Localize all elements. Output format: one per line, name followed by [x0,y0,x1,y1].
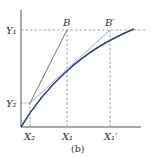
label-x1-prime: X₁′ [103,131,118,142]
concave-curve [21,29,134,127]
label-y1: Y₁ [6,25,17,36]
label-x2: X₂ [23,131,35,142]
figure-caption: (b) [71,143,85,154]
label-point-b-prime: B′ [104,17,115,28]
label-point-b: B [62,17,70,28]
chord-to-b-prime [30,30,110,103]
label-x1: X₁ [61,131,73,142]
chord-to-b [30,30,67,103]
label-y2: Y₂ [6,98,17,109]
diagram-canvas: B B′ Y₁ Y₂ X₂ X₁ X₁′ (b) [0,0,153,157]
